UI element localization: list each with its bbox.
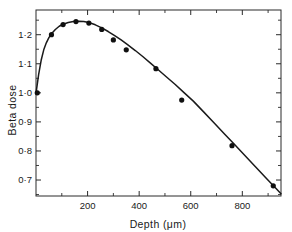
x-tick-label: 200 (80, 200, 96, 211)
data-point (179, 97, 184, 102)
fitted-curve-line (36, 21, 281, 193)
x-tick-label: 400 (131, 200, 147, 211)
data-point (73, 19, 78, 24)
data-point-markers (35, 19, 276, 188)
plot-frame (36, 10, 281, 196)
data-point (229, 143, 234, 148)
axis-ticks (36, 10, 281, 196)
y-tick-label: 0·9 (18, 116, 32, 127)
data-point (124, 47, 129, 52)
y-tick-label: 1·1 (18, 58, 32, 69)
data-point (99, 27, 104, 32)
x-tick-label: 600 (183, 200, 199, 211)
data-point (60, 22, 65, 27)
data-point (86, 20, 91, 25)
beta-dose-depth-chart: 0·70·80·91·01·11·2 200400600800 Depth (μ… (0, 0, 292, 232)
y-tick-label: 0·8 (18, 145, 32, 156)
x-tick-label: 800 (234, 200, 250, 211)
data-point (111, 37, 116, 42)
data-point (49, 32, 54, 37)
y-tick-label: 1·2 (18, 29, 32, 40)
y-tick-label: 0·7 (18, 174, 32, 185)
x-axis-title: Depth (μm) (130, 218, 187, 230)
data-point (153, 66, 158, 71)
x-axis-tick-labels: 200400600800 (80, 200, 251, 211)
data-point (35, 90, 40, 95)
y-tick-label: 1·0 (18, 87, 32, 98)
chart-figure: 0·70·80·91·01·11·2 200400600800 Depth (μ… (0, 0, 292, 232)
y-axis-tick-labels: 0·70·80·91·01·11·2 (18, 29, 32, 185)
data-point (271, 183, 276, 188)
y-axis-title: Beta dose (6, 85, 18, 136)
